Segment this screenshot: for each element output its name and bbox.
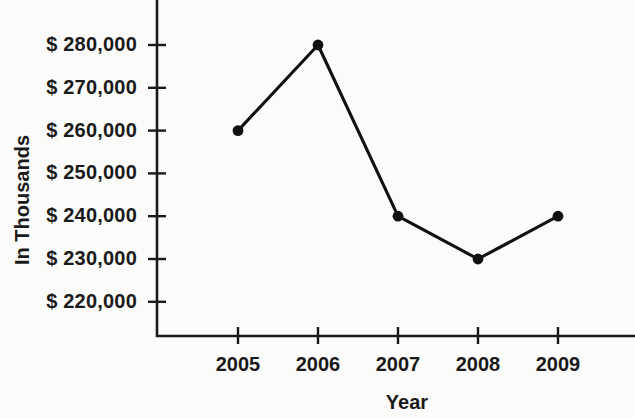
y-axis-title: In Thousands bbox=[12, 135, 32, 265]
data-point-markers bbox=[233, 40, 564, 265]
y-axis-tick-label: $ 270,000 bbox=[0, 77, 137, 97]
y-axis-tick-label: $ 220,000 bbox=[0, 291, 137, 311]
data-point bbox=[393, 211, 404, 222]
data-point bbox=[233, 125, 244, 136]
data-point bbox=[473, 254, 484, 265]
x-axis-tick-label: 2009 bbox=[513, 354, 603, 374]
x-axis-tick-label: 2005 bbox=[193, 354, 283, 374]
line-chart: $ 280,000$ 270,000$ 260,000$ 250,000$ 24… bbox=[0, 0, 635, 418]
data-point bbox=[553, 211, 564, 222]
data-point bbox=[313, 40, 324, 51]
axes-group bbox=[156, 0, 635, 337]
y-axis-tick-label: $ 280,000 bbox=[0, 34, 137, 54]
data-series-line bbox=[238, 45, 558, 259]
x-axis-tick-label: 2006 bbox=[273, 354, 363, 374]
x-axis-tick-label: 2008 bbox=[433, 354, 523, 374]
x-axis-tick-label: 2007 bbox=[353, 354, 443, 374]
x-axis-title: Year bbox=[217, 392, 597, 412]
